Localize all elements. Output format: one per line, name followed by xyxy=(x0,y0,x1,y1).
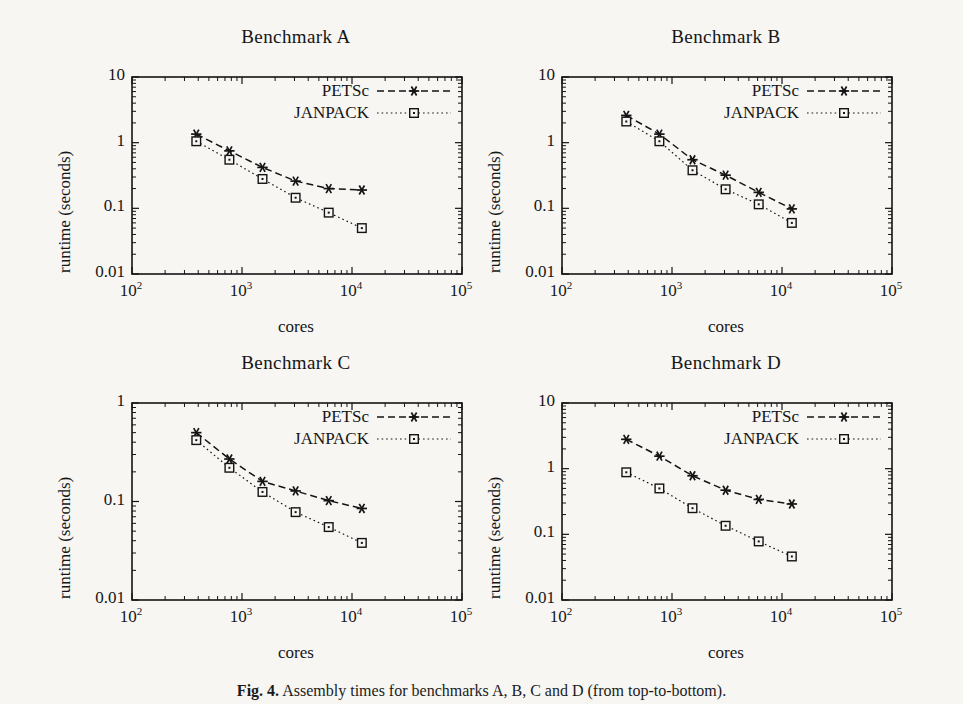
legend-swatch-petsc-icon xyxy=(805,408,883,426)
legend-item-petsc: PETSc xyxy=(673,407,883,427)
x-tick-base: 10 xyxy=(340,607,357,626)
x-tick-base: 10 xyxy=(880,607,897,626)
legend-swatch-petsc-icon xyxy=(375,408,453,426)
y-tick-label: 0.1 xyxy=(499,522,555,542)
x-tick-exponent: 3 xyxy=(247,279,253,291)
x-tick-exponent: 3 xyxy=(677,279,683,291)
x-tick-label: 102 xyxy=(101,279,161,301)
series-petsc-markers xyxy=(191,130,367,195)
x-tick-exponent: 3 xyxy=(677,605,683,617)
x-tick-exponent: 5 xyxy=(897,279,903,291)
x-tick-label: 105 xyxy=(861,279,921,301)
x-tick-exponent: 4 xyxy=(357,279,363,291)
chart-panel-benchmark-a: Benchmark Aruntime (seconds)cores1010.10… xyxy=(18,26,491,343)
series-janpack-markers xyxy=(622,117,796,227)
x-tick-base: 10 xyxy=(550,281,567,300)
x-tick-label: 103 xyxy=(211,605,271,627)
y-tick-label: 1 xyxy=(69,131,125,151)
x-axis-label: cores xyxy=(131,317,461,337)
x-tick-base: 10 xyxy=(770,281,787,300)
legend-item-janpack: JANPACK xyxy=(243,103,453,123)
x-axis-label: cores xyxy=(131,643,461,663)
legend-swatch-janpack-icon xyxy=(805,104,883,122)
legend-label-petsc: PETSc xyxy=(752,81,799,101)
legend-item-petsc: PETSc xyxy=(243,81,453,101)
x-tick-base: 10 xyxy=(660,281,677,300)
x-tick-base: 10 xyxy=(550,607,567,626)
legend-swatch-janpack-icon xyxy=(805,430,883,448)
chart-title: Benchmark C xyxy=(131,352,461,374)
x-tick-label: 102 xyxy=(101,605,161,627)
x-tick-label: 104 xyxy=(751,279,811,301)
x-tick-label: 104 xyxy=(751,605,811,627)
legend-swatch-petsc-icon xyxy=(805,82,883,100)
legend-label-janpack: JANPACK xyxy=(294,103,369,123)
x-tick-label: 102 xyxy=(531,279,591,301)
chart-panel-benchmark-b: Benchmark Bruntime (seconds)cores1010.10… xyxy=(448,26,921,343)
chart-title: Benchmark D xyxy=(561,352,891,374)
y-tick-label: 1 xyxy=(499,457,555,477)
x-tick-label: 103 xyxy=(211,279,271,301)
caption-label: Fig. 4. xyxy=(237,682,279,699)
legend-label-janpack: JANPACK xyxy=(724,429,799,449)
y-tick-label: 10 xyxy=(499,65,555,85)
x-tick-base: 10 xyxy=(880,281,897,300)
legend-item-petsc: PETSc xyxy=(243,407,453,427)
x-tick-base: 10 xyxy=(230,607,247,626)
x-tick-exponent: 2 xyxy=(567,279,573,291)
series-janpack-markers xyxy=(192,436,366,547)
x-tick-label: 105 xyxy=(861,605,921,627)
y-tick-label: 10 xyxy=(499,391,555,411)
x-tick-base: 10 xyxy=(120,281,137,300)
x-tick-base: 10 xyxy=(340,281,357,300)
legend-label-petsc: PETSc xyxy=(322,407,369,427)
x-tick-label: 103 xyxy=(641,605,701,627)
x-tick-exponent: 4 xyxy=(357,605,363,617)
legend-label-petsc: PETSc xyxy=(322,81,369,101)
x-tick-label: 102 xyxy=(531,605,591,627)
x-tick-label: 103 xyxy=(641,279,701,301)
y-tick-label: 1 xyxy=(499,131,555,151)
x-tick-base: 10 xyxy=(660,607,677,626)
x-tick-base: 10 xyxy=(770,607,787,626)
x-axis-label: cores xyxy=(561,643,891,663)
x-axis-label: cores xyxy=(561,317,891,337)
legend-item-janpack: JANPACK xyxy=(243,429,453,449)
x-tick-exponent: 4 xyxy=(787,605,793,617)
y-tick-label: 0.1 xyxy=(69,196,125,216)
figure-caption: Fig. 4. Assembly times for benchmarks A,… xyxy=(0,682,963,700)
x-tick-exponent: 2 xyxy=(567,605,573,617)
x-tick-exponent: 3 xyxy=(247,605,253,617)
y-tick-label: 1 xyxy=(69,391,125,411)
x-tick-exponent: 4 xyxy=(787,279,793,291)
x-tick-label: 104 xyxy=(321,279,381,301)
x-tick-label: 104 xyxy=(321,605,381,627)
legend-swatch-janpack-icon xyxy=(375,104,453,122)
chart-panel-benchmark-d: Benchmark Druntime (seconds)cores1010.10… xyxy=(448,352,921,669)
x-tick-base: 10 xyxy=(120,607,137,626)
legend-item-janpack: JANPACK xyxy=(673,429,883,449)
legend-swatch-petsc-icon xyxy=(375,82,453,100)
x-tick-exponent: 5 xyxy=(897,605,903,617)
series-janpack-markers xyxy=(192,137,366,232)
legend-item-petsc: PETSc xyxy=(673,81,883,101)
legend-swatch-janpack-icon xyxy=(375,430,453,448)
legend-label-janpack: JANPACK xyxy=(724,103,799,123)
chart-title: Benchmark B xyxy=(561,26,891,48)
x-tick-exponent: 2 xyxy=(137,279,143,291)
x-tick-base: 10 xyxy=(230,281,247,300)
legend-label-petsc: PETSc xyxy=(752,407,799,427)
x-tick-exponent: 2 xyxy=(137,605,143,617)
y-tick-label: 0.1 xyxy=(499,196,555,216)
y-tick-label: 10 xyxy=(69,65,125,85)
chart-panel-benchmark-c: Benchmark Cruntime (seconds)cores10.10.0… xyxy=(18,352,491,669)
figure-container: Benchmark Aruntime (seconds)cores1010.10… xyxy=(0,0,963,704)
y-tick-label: 0.1 xyxy=(69,490,125,510)
legend-item-janpack: JANPACK xyxy=(673,103,883,123)
caption-text: Assembly times for benchmarks A, B, C an… xyxy=(282,682,726,699)
legend-label-janpack: JANPACK xyxy=(294,429,369,449)
chart-title: Benchmark A xyxy=(131,26,461,48)
